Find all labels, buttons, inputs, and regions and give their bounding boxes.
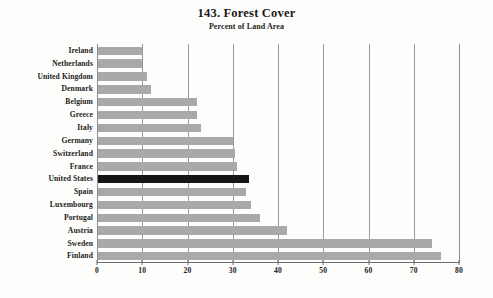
x-tickmark-50 — [323, 260, 324, 265]
x-tickmark-10 — [142, 260, 143, 265]
x-tick-label-60: 60 — [365, 266, 373, 275]
bar-row — [97, 83, 460, 96]
category-label-spain: Spain — [74, 185, 93, 198]
x-tick-label-20: 20 — [184, 266, 192, 275]
bar-finland — [97, 252, 441, 260]
y-axis-line — [97, 44, 98, 263]
forest-cover-chart: 143. Forest Cover Percent of Land Area I… — [0, 0, 493, 298]
category-label-belgium: Belgium — [65, 95, 93, 108]
bar-greece — [97, 111, 197, 119]
category-label-france: France — [70, 160, 93, 173]
bar-row — [97, 44, 460, 57]
category-label-sweden: Sweden — [68, 237, 94, 250]
x-tickmark-30 — [232, 260, 233, 265]
bar-denmark — [97, 85, 151, 93]
x-tickmark-70 — [413, 260, 414, 265]
bar-row — [97, 134, 460, 147]
bar-belgium — [97, 98, 197, 106]
x-tick-label-30: 30 — [229, 266, 237, 275]
bar-row — [97, 250, 460, 263]
category-label-austria: Austria — [68, 224, 93, 237]
category-axis-labels: IrelandNetherlandsUnited KingdomDenmarkB… — [0, 44, 93, 263]
category-label-netherlands: Netherlands — [52, 57, 93, 70]
bar-row — [97, 198, 460, 211]
x-tick-label-80: 80 — [455, 266, 463, 275]
category-label-greece: Greece — [70, 108, 93, 121]
x-tickmark-60 — [368, 260, 369, 265]
bar-portugal — [97, 214, 260, 222]
bar-france — [97, 162, 237, 170]
bar-row — [97, 224, 460, 237]
bar-germany — [97, 137, 233, 145]
x-tick-label-50: 50 — [319, 266, 327, 275]
bar-row — [97, 70, 460, 83]
category-label-ireland: Ireland — [68, 44, 93, 57]
category-label-united-kingdom: United Kingdom — [37, 70, 93, 83]
bar-united-states — [97, 175, 249, 183]
bar-series — [97, 44, 460, 263]
x-tick-label-40: 40 — [274, 266, 282, 275]
bar-luxembourg — [97, 201, 251, 209]
bar-row — [97, 121, 460, 134]
bar-switzerland — [97, 149, 235, 157]
bar-united-kingdom — [97, 72, 147, 80]
bar-row — [97, 172, 460, 185]
bar-row — [97, 237, 460, 250]
bar-row — [97, 147, 460, 160]
category-label-finland: Finland — [67, 250, 93, 263]
bar-netherlands — [97, 59, 142, 67]
x-axis-line — [97, 262, 460, 263]
page-title: 143. Forest Cover — [0, 6, 493, 20]
bar-row — [97, 57, 460, 70]
chart-subtitle: Percent of Land Area — [0, 21, 493, 32]
x-tick-label-10: 10 — [138, 266, 146, 275]
plot-right-border — [459, 44, 460, 263]
chart-title-block: 143. Forest Cover Percent of Land Area — [0, 6, 493, 32]
bar-row — [97, 108, 460, 121]
bar-italy — [97, 124, 201, 132]
category-label-switzerland: Switzerland — [53, 147, 93, 160]
x-tick-label-70: 70 — [410, 266, 418, 275]
bar-spain — [97, 188, 246, 196]
bar-row — [97, 185, 460, 198]
bar-sweden — [97, 239, 432, 247]
bar-row — [97, 160, 460, 173]
category-label-united-states: United States — [48, 172, 93, 185]
x-tickmark-80 — [459, 260, 460, 265]
category-label-denmark: Denmark — [62, 83, 94, 96]
bar-row — [97, 211, 460, 224]
category-label-luxembourg: Luxembourg — [50, 198, 93, 211]
bar-ireland — [97, 47, 142, 55]
category-label-portugal: Portugal — [64, 211, 93, 224]
x-tick-label-0: 0 — [95, 266, 99, 275]
category-label-italy: Italy — [77, 121, 93, 134]
bar-row — [97, 95, 460, 108]
category-label-germany: Germany — [62, 134, 94, 147]
x-tickmark-0 — [97, 260, 98, 265]
x-axis-tick-labels: 01020304050607080 — [97, 266, 460, 282]
x-tickmark-20 — [187, 260, 188, 265]
plot-area — [97, 44, 460, 263]
x-tickmark-40 — [278, 260, 279, 265]
bar-austria — [97, 226, 287, 234]
